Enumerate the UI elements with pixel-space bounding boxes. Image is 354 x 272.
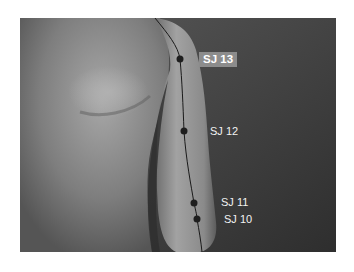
point-sj13 (177, 56, 184, 63)
point-sj10 (194, 216, 201, 223)
photo-illustration (20, 18, 336, 252)
label-sj11: SJ 11 (221, 196, 248, 209)
anatomy-photo (20, 18, 336, 252)
point-sj11 (191, 200, 198, 207)
label-sj12: SJ 12 (210, 125, 238, 138)
label-sj13: SJ 13 (199, 52, 237, 67)
point-sj12 (181, 128, 188, 135)
label-sj10: SJ 10 (224, 213, 252, 226)
